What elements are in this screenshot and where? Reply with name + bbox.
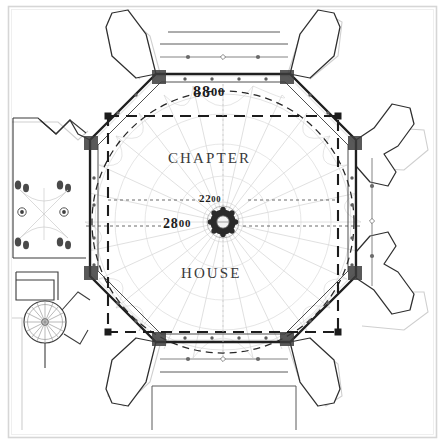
dimension-label-8800: 8800 (193, 83, 225, 101)
dim-8800-int: 88 (193, 83, 211, 100)
dim-2800-int: 28 (163, 216, 179, 231)
dim-2800-zeros: 00 (179, 217, 192, 229)
buttress-se (290, 338, 340, 406)
dim-2200-int: 22 (199, 192, 211, 204)
room-label-chapter: CHAPTER (168, 150, 251, 167)
buttress-nw (106, 10, 156, 78)
south-entry-wall (152, 372, 296, 430)
buttress-e-upper (356, 104, 414, 186)
north-entry-wall (160, 32, 288, 44)
buttress-sw (106, 338, 156, 406)
buttress-ne (290, 10, 340, 78)
floor-plan-drawing: 8800 CHAPTER 2200 2800 HOUSE (0, 0, 443, 444)
central-pier (203, 202, 243, 242)
dimension-label-2200: 2200 (199, 192, 221, 204)
west-vestibule (13, 118, 86, 300)
dimension-label-2800: 2800 (163, 216, 191, 232)
spiral-stair-turret (24, 292, 90, 368)
plan-vector-canvas (0, 0, 443, 444)
buttresses (40, 10, 414, 406)
room-label-house: HOUSE (181, 265, 242, 282)
dim-2200-zeros: 00 (211, 194, 221, 204)
dim-8800-zeros: 00 (211, 85, 225, 99)
buttress-e-lower (356, 232, 414, 314)
